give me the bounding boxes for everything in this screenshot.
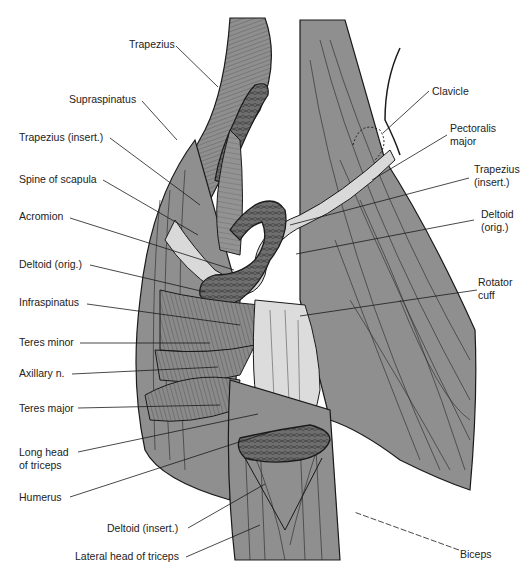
label-trapezius-insert-right-line1: Trapezius: [474, 163, 520, 176]
label-deltoid-insert: Deltoid (insert.): [107, 522, 178, 535]
clavicle-outline: [385, 48, 400, 155]
label-axillary-n: Axillary n.: [19, 367, 65, 380]
label-spine-of-scapula: Spine of scapula: [19, 173, 97, 186]
label-trapezius-insert-right-line2: (insert.): [474, 176, 510, 189]
label-deltoid-orig-right-line2: (orig.): [481, 221, 508, 234]
label-teres-major: Teres major: [19, 402, 74, 415]
label-pectoralis-major-line2: major: [450, 135, 476, 148]
label-biceps: Biceps: [460, 548, 492, 561]
label-rotator-cuff-line1: Rotator: [478, 276, 512, 289]
label-teres-minor: Teres minor: [19, 336, 74, 349]
label-humerus: Humerus: [19, 491, 62, 504]
label-acromion: Acromion: [19, 210, 63, 223]
label-pectoralis-major-line1: Pectoralis: [450, 122, 496, 135]
label-deltoid-orig: Deltoid (orig.): [19, 258, 82, 271]
label-trapezius-insert: Trapezius (insert.): [19, 131, 103, 144]
label-supraspinatus: Supraspinatus: [69, 93, 136, 106]
label-lateral-head-triceps: Lateral head of triceps: [75, 550, 179, 563]
label-rotator-cuff-line2: cuff: [478, 289, 495, 302]
label-clavicle: Clavicle: [432, 85, 469, 98]
label-infraspinatus: Infraspinatus: [19, 296, 79, 309]
label-long-head-triceps-line1: Long head: [19, 446, 69, 459]
label-deltoid-orig-right-line1: Deltoid: [481, 208, 514, 221]
label-trapezius: Trapezius: [129, 38, 175, 51]
label-long-head-triceps-line2: of triceps: [19, 459, 62, 472]
